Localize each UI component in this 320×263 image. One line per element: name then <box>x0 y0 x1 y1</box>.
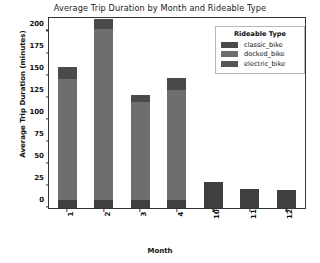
chart-figure: Average Trip Duration by Month and Ridea… <box>0 0 320 263</box>
y-tick-label: 100 <box>29 108 49 116</box>
bar-segment-classic_bike[interactable] <box>58 67 77 79</box>
bar[interactable] <box>167 78 186 209</box>
legend-label: classic_bike <box>244 41 283 49</box>
y-axis-label: Average Trip Duration (minutes) <box>19 19 27 169</box>
bar-segment-classic_bike[interactable] <box>167 78 186 90</box>
bar-segment-docked_bike[interactable] <box>58 79 77 200</box>
bar[interactable] <box>204 182 223 208</box>
chart-title: Average Trip Duration by Month and Ridea… <box>0 3 320 13</box>
bar-segment-docked_bike[interactable] <box>167 90 186 200</box>
y-tick-label: 25 <box>34 174 49 182</box>
bar-segment-docked_bike[interactable] <box>94 29 113 200</box>
y-tick-mark <box>46 52 50 53</box>
bar-segment-electric_bike[interactable] <box>277 190 296 208</box>
legend-item[interactable]: electric_bike <box>221 60 299 68</box>
y-tick-mark <box>46 30 50 31</box>
bar[interactable] <box>94 19 113 208</box>
y-tick-mark <box>46 74 50 75</box>
y-tick-mark <box>46 162 50 163</box>
y-tick-label: 150 <box>29 64 49 72</box>
x-tick-label: 2 <box>104 212 112 217</box>
legend-item[interactable]: docked_bike <box>221 50 299 58</box>
x-tick-label: 10 <box>213 209 221 219</box>
y-tick-label: 50 <box>34 152 49 160</box>
bar[interactable] <box>240 189 259 208</box>
bar-segment-electric_bike[interactable] <box>58 200 77 208</box>
legend-title: Rideable Type <box>221 30 299 38</box>
legend-items: classic_bikedocked_bikeelectric_bike <box>221 41 299 68</box>
bar-segment-classic_bike[interactable] <box>131 95 150 102</box>
x-tick-label: 3 <box>140 212 148 217</box>
legend-item[interactable]: classic_bike <box>221 41 299 49</box>
legend-swatch <box>221 51 238 57</box>
y-tick-mark <box>46 184 50 185</box>
y-tick-mark <box>46 96 50 97</box>
bar-segment-electric_bike[interactable] <box>167 200 186 208</box>
y-tick-mark <box>46 206 50 207</box>
bar[interactable] <box>58 67 77 208</box>
legend-label: docked_bike <box>244 50 285 58</box>
legend-swatch <box>221 42 238 48</box>
bar-segment-electric_bike[interactable] <box>131 200 150 208</box>
bar-segment-electric_bike[interactable] <box>94 200 113 208</box>
bar[interactable] <box>277 190 296 208</box>
y-tick-label: 125 <box>29 86 49 94</box>
bar-segment-electric_bike[interactable] <box>240 189 259 208</box>
bar-segment-classic_bike[interactable] <box>94 19 113 29</box>
bar-segment-docked_bike[interactable] <box>131 102 150 200</box>
bar[interactable] <box>131 95 150 208</box>
x-tick-label: 1 <box>67 212 75 217</box>
x-tick-label: 4 <box>177 212 185 217</box>
x-tick-label: 12 <box>286 209 294 219</box>
y-tick-label: 0 <box>39 196 49 204</box>
y-tick-label: 175 <box>29 42 49 50</box>
legend-swatch <box>221 61 238 67</box>
y-tick-label: 200 <box>29 20 49 28</box>
y-tick-mark <box>46 140 50 141</box>
legend-label: electric_bike <box>244 60 285 68</box>
chart-legend: Rideable Type classic_bikedocked_bikeele… <box>215 26 305 74</box>
y-tick-mark <box>46 118 50 119</box>
y-tick-label: 75 <box>34 130 49 138</box>
x-axis-label: Month <box>0 247 320 255</box>
x-tick-label: 11 <box>250 209 258 219</box>
bar-segment-electric_bike[interactable] <box>204 182 223 208</box>
